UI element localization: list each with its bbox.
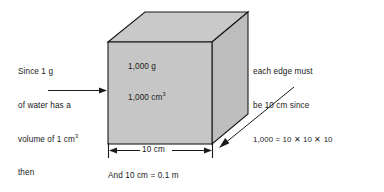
left-note-line-3-text: volume of 1 cm [18, 135, 75, 144]
left-note-line-3-exponent: 3 [75, 133, 78, 139]
left-note-arrow-head [99, 88, 107, 94]
right-note-line-3: 1,000 = 10 ✕ 10 ✕ 10 [253, 134, 333, 145]
cube-volume-label-exponent: 3 [162, 91, 165, 97]
dimension-arrowhead-left [109, 148, 117, 154]
edge-dimension-label: 10 cm [142, 144, 165, 155]
left-note-line-2: of water has a [18, 100, 78, 111]
bottom-caption: And 10 cm = 0.1 m [108, 170, 179, 181]
cube-volume-label-text: 1,000 cm [128, 93, 162, 102]
left-note-line-4: then [18, 167, 78, 178]
cube-mass-label: 1,000 g [128, 61, 156, 72]
right-note-text: each edge must be 10 cm since 1,000 = 10… [253, 44, 333, 167]
left-note-line-3: volume of 1 cm3 [18, 134, 78, 145]
diagram-canvas: Since 1 g of water has a volume of 1 cm3… [0, 0, 384, 192]
right-note-line-2: be 10 cm since [253, 100, 333, 111]
left-note-text: Since 1 g of water has a volume of 1 cm3… [18, 44, 78, 192]
left-note-line-1: Since 1 g [18, 66, 78, 77]
right-note-line-1: each edge must [253, 66, 333, 77]
dimension-arrowhead-right [204, 148, 212, 154]
cube-volume-label: 1,000 cm3 [128, 92, 166, 103]
right-note-arrow-head [219, 138, 229, 148]
